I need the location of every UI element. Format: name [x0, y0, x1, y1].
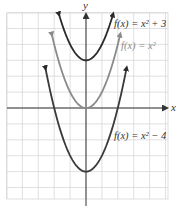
- label-x-squared: f(x) = x²: [121, 40, 157, 52]
- label-x-squared-plus-3: f(x) = x² + 3: [114, 18, 166, 30]
- parabola-graph: x y f(x) = x² + 3 f(x) = x² f(x) = x² − …: [0, 0, 180, 212]
- y-axis-label: y: [82, 0, 88, 11]
- curve-labels: x y f(x) = x² + 3 f(x) = x² f(x) = x² − …: [82, 0, 176, 142]
- label-x-squared-minus-4: f(x) = x² − 4: [114, 130, 167, 142]
- x-axis-label: x: [170, 101, 176, 113]
